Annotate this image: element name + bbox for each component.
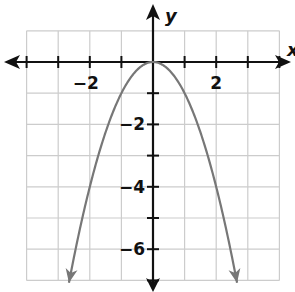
y-tick-label: −4 (119, 177, 145, 197)
x-axis-label: x (286, 39, 295, 60)
y-tick-label: −2 (119, 114, 145, 134)
x-tick-label: −2 (73, 73, 99, 93)
y-axis-label: y (165, 5, 178, 26)
x-tick-label: 2 (210, 73, 222, 93)
coordinate-plane: −22−2−4−6 x y (0, 0, 295, 292)
y-tick-label: −6 (119, 239, 145, 259)
